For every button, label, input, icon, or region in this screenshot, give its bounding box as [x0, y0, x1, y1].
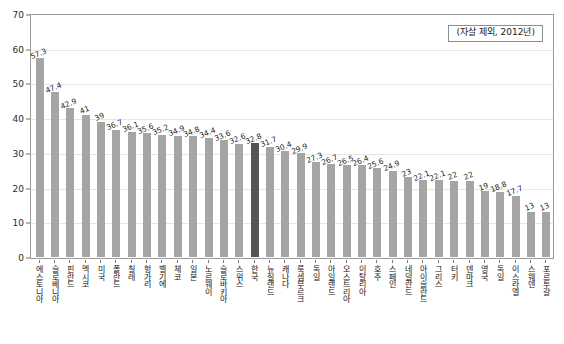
bar-slot[interactable]: 22: [447, 16, 462, 257]
bar-slot[interactable]: 36.1: [124, 16, 139, 257]
bar-slot[interactable]: 39: [93, 16, 108, 257]
bar[interactable]: [481, 191, 489, 257]
bar[interactable]: [512, 196, 520, 257]
bar-slot[interactable]: 26.5: [339, 16, 354, 257]
bar-slot[interactable]: 34.8: [186, 16, 201, 257]
x-axis-slot: 에스토니아: [31, 260, 46, 344]
bar[interactable]: [158, 135, 166, 257]
bar[interactable]: [112, 130, 120, 257]
bar-slot[interactable]: 57.3: [32, 16, 47, 257]
x-axis-slot: 영국: [476, 260, 491, 344]
x-tick-mark: [192, 260, 193, 263]
bar-slot[interactable]: 29.9: [293, 16, 308, 257]
x-tick-mark: [453, 260, 454, 263]
bar[interactable]: [143, 133, 151, 257]
bar-value-label: 17.7: [505, 184, 523, 197]
bar[interactable]: [82, 115, 90, 257]
bar-highlighted[interactable]: [251, 143, 259, 257]
x-tick-mark: [100, 260, 101, 263]
x-axis-slot: 폴란드: [108, 260, 123, 344]
bar-slot[interactable]: 24.9: [385, 16, 400, 257]
bar[interactable]: [327, 164, 335, 257]
bar-slot[interactable]: 35.2: [155, 16, 170, 257]
bar[interactable]: [128, 132, 136, 257]
x-tick-mark: [376, 260, 377, 263]
bar-slot[interactable]: 47.4: [47, 16, 62, 257]
y-tick-label: 10: [13, 219, 24, 228]
bar-slot[interactable]: 17.7: [508, 16, 523, 257]
plot-area: 57.347.442.9413936.736.135.635.234.934.8…: [30, 14, 554, 259]
bar[interactable]: [373, 168, 381, 257]
x-tick-label: 덴마크: [464, 265, 472, 288]
x-axis-slot: 스위스: [231, 260, 246, 344]
bar[interactable]: [51, 92, 59, 257]
bar-slot[interactable]: 31.7: [262, 16, 277, 257]
bar[interactable]: [281, 151, 289, 257]
x-axis-slot: 칠레: [123, 260, 138, 344]
x-tick-mark: [223, 260, 224, 263]
bar-slot[interactable]: 32.8: [247, 16, 262, 257]
bar-slot[interactable]: 34.9: [170, 16, 185, 257]
y-tick-label: 30: [13, 149, 24, 158]
bar-slot[interactable]: 22.1: [416, 16, 431, 257]
bar[interactable]: [542, 212, 550, 257]
x-tick-label: 미국: [96, 265, 104, 280]
bar[interactable]: [496, 192, 504, 257]
bar[interactable]: [97, 122, 105, 257]
bar[interactable]: [419, 180, 427, 257]
bar-slot[interactable]: 27.3: [308, 16, 323, 257]
bar[interactable]: [220, 140, 228, 257]
bar-slot[interactable]: 22.1: [431, 16, 446, 257]
x-tick-label: 터키: [449, 265, 457, 280]
x-axis-slot: 네덜란드: [399, 260, 414, 344]
bar-slot[interactable]: 30.4: [278, 16, 293, 257]
bar-slot[interactable]: 42.9: [63, 16, 78, 257]
x-tick-mark: [346, 260, 347, 263]
bar[interactable]: [404, 177, 412, 257]
bar[interactable]: [189, 136, 197, 257]
bar[interactable]: [435, 180, 443, 257]
bar-slot[interactable]: 13: [523, 16, 538, 257]
x-tick-mark: [469, 260, 470, 263]
bar[interactable]: [266, 147, 274, 257]
bar[interactable]: [466, 181, 474, 257]
x-axis-slot: 아일랜드: [323, 260, 338, 344]
bar-slot[interactable]: 23: [400, 16, 415, 257]
bar[interactable]: [36, 58, 44, 257]
bar[interactable]: [450, 181, 458, 257]
bar-slot[interactable]: 41: [78, 16, 93, 257]
x-tick-label: 캐나다: [280, 265, 288, 288]
bar-slot[interactable]: 35.6: [139, 16, 154, 257]
bar[interactable]: [358, 165, 366, 257]
bar[interactable]: [235, 144, 243, 257]
bar[interactable]: [389, 171, 397, 257]
bar-slot[interactable]: 25.6: [370, 16, 385, 257]
bar[interactable]: [343, 165, 351, 257]
bar-slot[interactable]: 18.8: [493, 16, 508, 257]
x-tick-mark: [330, 260, 331, 263]
bar[interactable]: [297, 153, 305, 257]
bar-slot[interactable]: 13: [539, 16, 554, 257]
bar-slot[interactable]: 22: [462, 16, 477, 257]
bar-slot[interactable]: 26.7: [324, 16, 339, 257]
bar-slot[interactable]: 36.7: [109, 16, 124, 257]
x-tick-label: 에스토니아: [35, 265, 43, 303]
bar[interactable]: [312, 162, 320, 257]
bar-slot[interactable]: 26.4: [354, 16, 369, 257]
x-tick-label: 노르웨이: [203, 265, 211, 295]
x-tick-mark: [85, 260, 86, 263]
x-axis-slot: 룩셈부르크: [292, 260, 307, 344]
x-axis-slot: 그리스: [430, 260, 445, 344]
x-tick-mark: [438, 260, 439, 263]
x-axis-slot: 스페인: [384, 260, 399, 344]
bar[interactable]: [174, 136, 182, 257]
bar[interactable]: [527, 212, 535, 257]
x-tick-mark: [284, 260, 285, 263]
x-tick-mark: [208, 260, 209, 263]
bar[interactable]: [66, 108, 74, 257]
y-tick-label: 40: [13, 115, 24, 124]
bar[interactable]: [205, 138, 213, 257]
bar-slot[interactable]: 19: [477, 16, 492, 257]
x-axis-slot: 호주: [369, 260, 384, 344]
x-tick-label: 뉴질랜드: [265, 265, 273, 295]
